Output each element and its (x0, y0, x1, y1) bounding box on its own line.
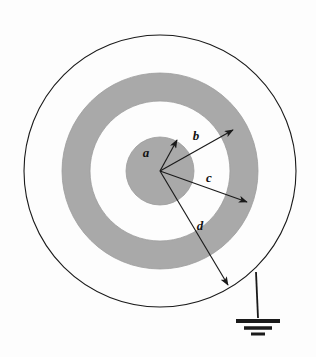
radius-label-b: b (193, 128, 200, 143)
radius-label-a: a (143, 145, 150, 160)
ground-bar-top (236, 319, 280, 323)
radius-label-c: c (206, 170, 212, 185)
figure-container: a b c d (0, 0, 316, 357)
ground-bar-middle (244, 326, 272, 330)
ground-wire (256, 272, 258, 318)
radius-label-d: d (197, 218, 204, 233)
ground-bar-bottom (251, 333, 265, 336)
ground-symbol (236, 272, 280, 336)
concentric-spheres-diagram: a b c d (0, 0, 316, 357)
